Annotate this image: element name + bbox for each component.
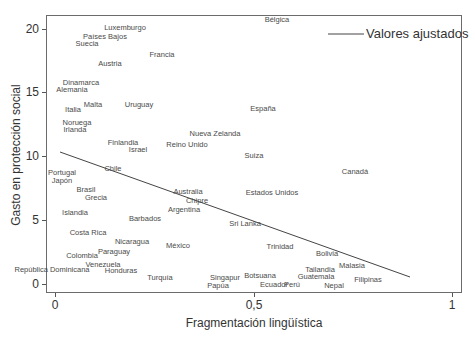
data-point-label: Trinidad (267, 243, 294, 251)
data-point-label: Estados Unidos (246, 189, 299, 197)
data-point-label: Australia (173, 188, 202, 196)
data-point-label: Guatemala (298, 273, 335, 281)
data-point-label: Grecia (85, 194, 107, 202)
data-point-label: Reino Unido (166, 141, 207, 149)
data-point-label: Honduras (105, 267, 138, 275)
data-point-label: Israel (129, 146, 147, 154)
data-point-label: Islandia (62, 209, 88, 217)
data-point-label: Alemania (56, 86, 87, 94)
data-point-label: Austria (98, 60, 121, 68)
data-point-label: Luxemburgo (104, 24, 146, 32)
data-point-label: Japón (52, 177, 72, 185)
data-point-label: República Dominicana (14, 266, 89, 274)
data-point-label: Bolivia (316, 250, 338, 258)
data-point-label: Paraguay (98, 248, 130, 256)
data-point-label: Perú (284, 281, 300, 289)
data-point-label: Canadá (342, 168, 368, 176)
data-point-label: Chipre (186, 197, 208, 205)
data-point-label: Nicaragua (115, 238, 149, 246)
data-point-label: Sri Lanka (229, 220, 261, 228)
data-point-label: Francia (149, 51, 174, 59)
data-point-label: Uruguay (125, 101, 153, 109)
data-point-label: México (166, 242, 190, 250)
data-point-label: Barbados (129, 215, 161, 223)
data-point-label: Nueva Zelanda (190, 130, 241, 138)
data-point-label: Nepal (324, 282, 344, 290)
data-point-label: Suecia (76, 40, 99, 48)
data-point-label: Turquía (147, 274, 173, 282)
data-point-label: España (250, 105, 275, 113)
legend-label: Valores ajustados (366, 26, 468, 41)
data-point-label: Irlanda (64, 126, 87, 134)
data-point-label: Colombia (66, 252, 98, 260)
data-point-label: Botsuana (244, 272, 276, 280)
data-point-label: Malta (84, 101, 102, 109)
data-point-label: Papúa (207, 282, 229, 290)
data-point-label: Italia (65, 106, 81, 114)
data-point-label: Suiza (245, 152, 264, 160)
data-point-label: Filipinas (354, 276, 382, 284)
data-point-label: Malasia (339, 262, 365, 270)
data-point-label: Chile (104, 165, 121, 173)
data-point-label: Argentina (168, 206, 200, 214)
data-point-label: Costa Rica (70, 229, 107, 237)
data-point-label: Bélgica (265, 16, 290, 24)
